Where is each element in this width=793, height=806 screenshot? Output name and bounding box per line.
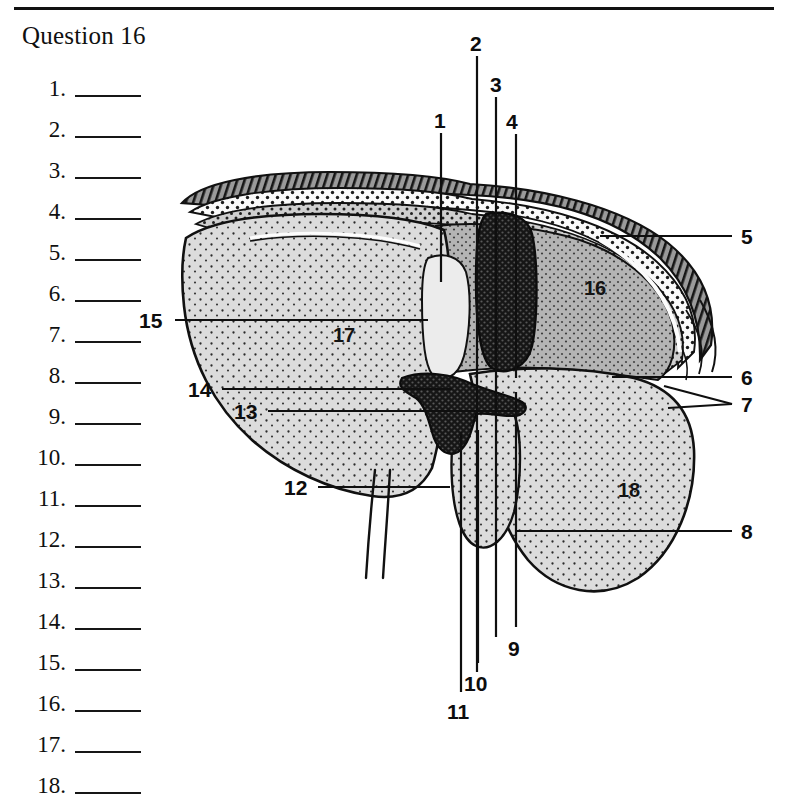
answer-row[interactable]: 11.	[0, 469, 180, 510]
answer-row[interactable]: 2.	[0, 100, 180, 141]
subcapsular-fat-band	[190, 188, 695, 368]
porta-hepatis-vessel-cluster	[400, 374, 525, 454]
quadrate-lobe	[451, 394, 520, 548]
answer-row[interactable]: 1.	[0, 59, 180, 100]
answer-blank-input[interactable]	[75, 751, 141, 753]
callout-labels: 1 2 3 4 5 6 7 8 9 10 11 12 13 14 15	[139, 32, 753, 723]
answer-row[interactable]: 7.	[0, 305, 180, 346]
leader-line-7b	[668, 404, 732, 408]
answer-row[interactable]: 3.	[0, 141, 180, 182]
callout-label-10: 10	[464, 672, 487, 695]
answer-number: 12.	[24, 528, 66, 551]
answer-number: 11.	[24, 487, 66, 510]
answer-number: 3.	[24, 159, 66, 182]
serosa-dotted-band	[196, 203, 683, 374]
answer-list: 1. 2. 3. 4. 5. 6. 7. 8. 9. 10. 11. 12. 1…	[0, 59, 180, 797]
answer-row[interactable]: 13.	[0, 551, 180, 592]
organ-body	[182, 172, 716, 591]
callout-label-9: 9	[508, 637, 520, 660]
region-label-18: 18	[618, 479, 640, 501]
answer-blank-input[interactable]	[75, 587, 141, 589]
answer-number: 5.	[24, 241, 66, 264]
fissure-line-upper	[250, 233, 420, 246]
parenchyma-light-left-lobe	[182, 214, 450, 497]
answer-number: 9.	[24, 405, 66, 428]
falciform-ligament-strand-left	[366, 470, 375, 578]
page-title: Question 16	[22, 22, 180, 50]
falciform-ligament-strand-right	[383, 470, 390, 578]
answer-number: 13.	[24, 569, 66, 592]
answer-number: 6.	[24, 282, 66, 305]
answer-blank-input[interactable]	[75, 505, 141, 507]
capsule-tail-tip	[672, 330, 687, 380]
parenchyma-light-right-lobe	[470, 368, 694, 591]
region-label-16: 16	[584, 277, 606, 299]
answer-blank-input[interactable]	[75, 464, 141, 466]
region-labels: 16 17 18	[333, 277, 640, 501]
answer-row[interactable]: 16.	[0, 674, 180, 715]
answer-number: 18.	[24, 774, 66, 797]
answer-blank-input[interactable]	[75, 546, 141, 548]
answer-row[interactable]: 12.	[0, 510, 180, 551]
answer-number: 8.	[24, 364, 66, 387]
callout-label-2: 2	[470, 32, 482, 55]
answer-number: 17.	[24, 733, 66, 756]
answer-number: 7.	[24, 323, 66, 346]
answer-number: 4.	[24, 200, 66, 223]
answer-row[interactable]: 10.	[0, 428, 180, 469]
diaphragm-hatched-band	[182, 172, 712, 360]
fissure-line-upper-shadow	[250, 236, 420, 249]
callout-label-12: 12	[284, 476, 307, 499]
answer-row[interactable]: 15.	[0, 633, 180, 674]
answer-blank-input[interactable]	[75, 423, 141, 425]
vena-cava-dark-vessel	[476, 213, 537, 371]
anterior-pale-structure	[422, 255, 470, 378]
answer-blank-input[interactable]	[75, 300, 141, 302]
answer-blank-input[interactable]	[75, 136, 141, 138]
answer-blank-input[interactable]	[75, 792, 141, 794]
capsule-tail-inner	[686, 310, 702, 374]
callout-label-3: 3	[490, 73, 502, 96]
callout-label-11: 11	[447, 700, 470, 723]
callout-label-1: 1	[434, 109, 446, 132]
answer-blank-input[interactable]	[75, 628, 141, 630]
callout-label-5: 5	[741, 225, 753, 248]
answer-row[interactable]: 18.	[0, 756, 180, 797]
answer-row[interactable]: 9.	[0, 387, 180, 428]
answer-blank-input[interactable]	[75, 95, 141, 97]
leader-line-7a	[664, 386, 732, 404]
answer-blank-input[interactable]	[75, 177, 141, 179]
leader-lines	[175, 56, 732, 692]
answer-number: 2.	[24, 118, 66, 141]
answer-blank-input[interactable]	[75, 710, 141, 712]
callout-label-8: 8	[741, 520, 753, 543]
callout-label-4: 4	[506, 110, 518, 133]
answer-number: 14.	[24, 610, 66, 633]
answer-row[interactable]: 6.	[0, 264, 180, 305]
answer-blank-input[interactable]	[75, 341, 141, 343]
callout-label-6: 6	[741, 366, 753, 389]
answer-blank-input[interactable]	[75, 382, 141, 384]
capsule-tail-outer	[700, 300, 716, 372]
callout-label-13: 13	[234, 400, 257, 423]
answer-row[interactable]: 8.	[0, 346, 180, 387]
answer-row[interactable]: 5.	[0, 223, 180, 264]
callout-label-14: 14	[188, 378, 212, 401]
answer-number: 15.	[24, 651, 66, 674]
parenchyma-mid-region	[436, 224, 674, 380]
answer-blank-input[interactable]	[75, 669, 141, 671]
answer-panel: Question 16 1. 2. 3. 4. 5. 6. 7. 8. 9. 1…	[0, 22, 180, 797]
callout-label-7: 7	[741, 393, 753, 416]
answer-number: 1.	[24, 77, 66, 100]
capsule-highlight-line	[600, 240, 680, 352]
answer-blank-input[interactable]	[75, 259, 141, 261]
answer-number: 16.	[24, 692, 66, 715]
page-top-rule	[14, 7, 774, 10]
answer-row[interactable]: 14.	[0, 592, 180, 633]
answer-row[interactable]: 4.	[0, 182, 180, 223]
answer-number: 10.	[24, 446, 66, 469]
answer-row[interactable]: 17.	[0, 715, 180, 756]
answer-blank-input[interactable]	[75, 218, 141, 220]
region-label-17: 17	[333, 324, 355, 346]
